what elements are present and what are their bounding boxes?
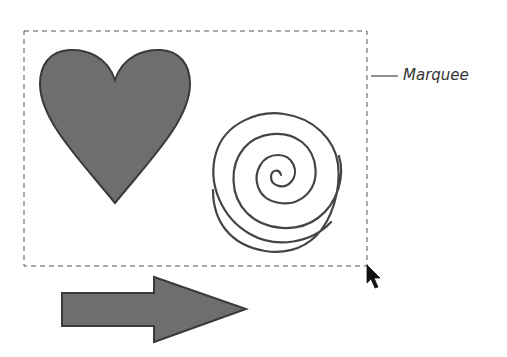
arrow-shape[interactable] (62, 277, 246, 342)
diagram-canvas (0, 0, 507, 357)
marquee-callout-label: Marquee (403, 66, 469, 84)
heart-shape[interactable] (40, 50, 190, 203)
spiral-shape[interactable] (213, 113, 341, 252)
arrow-pointer-icon (367, 265, 380, 288)
